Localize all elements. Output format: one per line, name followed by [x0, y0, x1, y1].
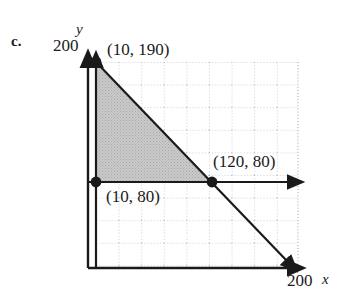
x-axis-label: x	[322, 271, 329, 288]
graph-figure: c.	[0, 0, 341, 296]
y-tick-label-200: 200	[53, 36, 79, 56]
point-label-120-80: (120, 80)	[213, 152, 275, 172]
x-tick-label-200: 200	[287, 271, 313, 291]
point-label-10-190: (10, 190)	[107, 40, 169, 60]
point-120-80[interactable]	[207, 177, 218, 188]
point-10-80[interactable]	[91, 177, 102, 188]
coordinate-plot	[0, 0, 341, 296]
point-label-10-80: (10, 80)	[106, 187, 160, 207]
point-10-190[interactable]	[91, 57, 102, 68]
